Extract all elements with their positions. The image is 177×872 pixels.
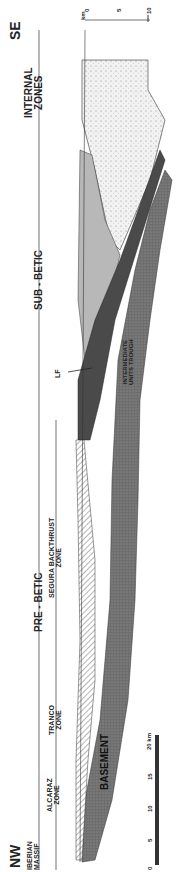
- depth-tick-5: 5: [116, 9, 122, 12]
- depth-tick-10: 10: [146, 7, 152, 14]
- hscale-tick-5: 5: [147, 839, 153, 842]
- zone-alcaraz-label: ALCARAZ ZONE: [46, 778, 60, 812]
- depth-tick-0: 0: [84, 9, 90, 12]
- basement-label: BASEMENT: [100, 734, 110, 790]
- zone-iberian-label: IBERIAN MASSIF: [26, 841, 40, 870]
- hscale-unit: 20 km: [146, 733, 152, 750]
- depth-scale-unit: km: [80, 11, 86, 20]
- zone-segura-label: SEGURA BACKTHRUST ZONE: [48, 518, 62, 598]
- zone-subbetic-label: SUB - BETIC: [34, 250, 44, 310]
- orientation-se-label: SE: [8, 21, 22, 40]
- trough-label: INTERMEDIATE UNITS TROUGH: [122, 339, 134, 385]
- zone-tranco-label: TRANCO ZONE: [48, 705, 62, 735]
- zone-prebetic-label: PRE - BETIC: [34, 573, 44, 632]
- zone-internal-label: INTERNAL ZONES: [24, 67, 44, 118]
- hscale-tick-0: 0: [147, 867, 153, 870]
- fault-lf-label: LF: [54, 369, 61, 378]
- hscale-tick-10: 10: [147, 805, 153, 812]
- hscale-tick-15: 15: [147, 773, 153, 780]
- orientation-nw-label: NW: [8, 845, 22, 868]
- geologic-cross-section: SE NW INTERNAL ZONES SUB - BETIC PRE - B…: [0, 0, 177, 872]
